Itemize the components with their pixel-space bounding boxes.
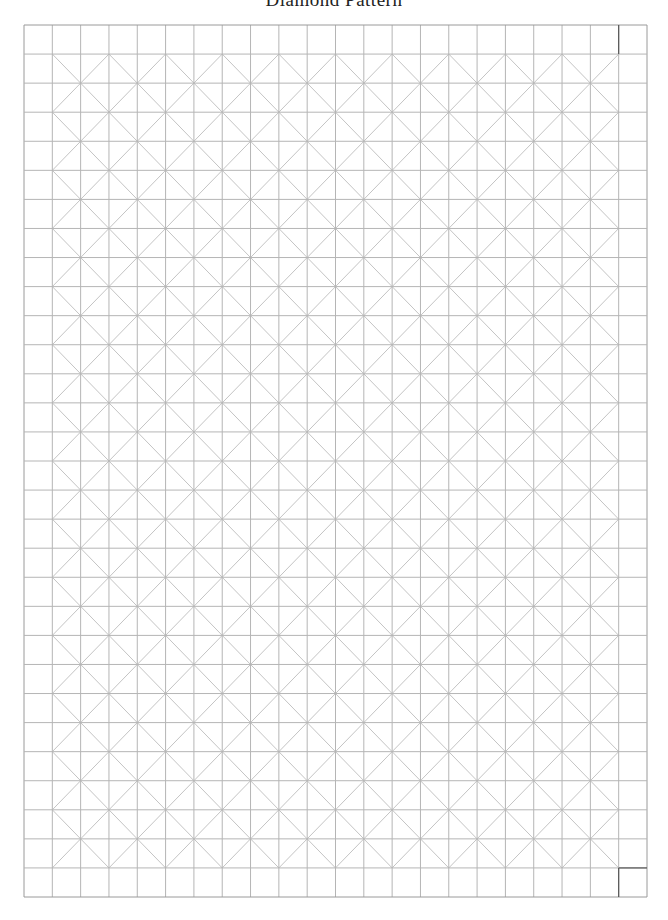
grid-lines <box>24 25 647 897</box>
diamond-grid <box>0 0 668 920</box>
